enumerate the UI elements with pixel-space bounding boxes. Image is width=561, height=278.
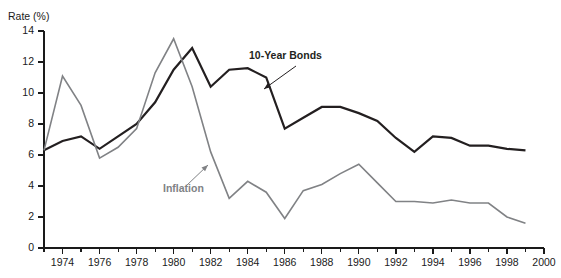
series-line-inflation [44,39,525,223]
y-axis-title: Rate (%) [8,10,49,22]
x-tick-label: 1994 [421,256,445,268]
y-tick-label: 4 [28,179,34,191]
series-line-10-year-bonds [44,48,525,152]
x-tick-label: 1984 [236,256,260,268]
rate-chart: Rate (%) 02468101214 1974197619781980198… [0,0,561,278]
y-tick-label: 2 [28,210,34,222]
annotation-label-inflation: Inflation [163,182,204,194]
x-tick-label: 1996 [458,256,482,268]
x-tick-label: 1988 [310,256,334,268]
x-tick-label: 1982 [199,256,223,268]
chart-canvas: Rate (%) 02468101214 1974197619781980198… [0,0,561,278]
y-tick-label: 12 [22,55,34,67]
y-tick-label: 0 [28,241,34,253]
x-tick-label: 1980 [162,256,186,268]
y-tick-label: 14 [22,24,34,36]
data-series-group [44,39,525,223]
y-tick-label: 8 [28,117,34,129]
x-tick-label: 1974 [51,256,75,268]
x-axis-ticks: 1974197619781980198219841986198819901992… [44,248,556,268]
annotation-label-10-year-bonds: 10-Year Bonds [249,49,322,61]
y-tick-label: 6 [28,148,34,160]
y-axis-ticks: 02468101214 [22,24,44,253]
x-tick-label: 1998 [495,256,519,268]
y-tick-label: 10 [22,86,34,98]
x-tick-label: 2000 [532,256,556,268]
x-tick-label: 1976 [88,256,112,268]
x-tick-label: 1992 [384,256,408,268]
x-tick-label: 1978 [125,256,149,268]
x-tick-label: 1990 [347,256,371,268]
x-tick-label: 1986 [273,256,297,268]
